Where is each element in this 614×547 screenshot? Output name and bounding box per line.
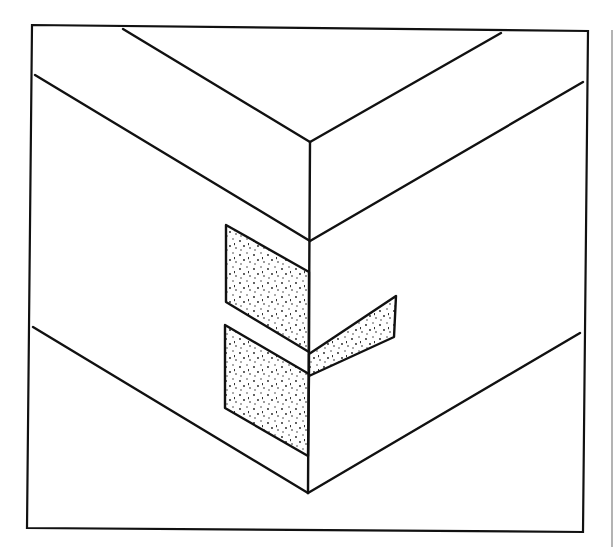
upper-left-edge xyxy=(35,75,310,241)
top-right-back-edge xyxy=(310,33,501,142)
top-left-back-edge xyxy=(123,29,310,142)
right-wedge-tenon xyxy=(309,296,396,376)
upper-right-edge xyxy=(310,82,583,241)
joint-diagram xyxy=(0,0,614,547)
